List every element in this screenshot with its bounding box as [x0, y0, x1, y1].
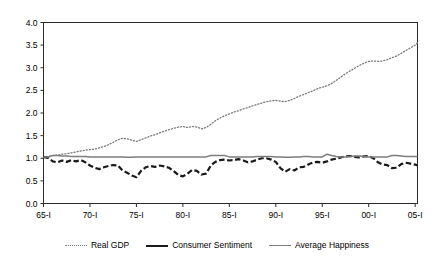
solid-line-key-icon	[269, 242, 291, 249]
x-tick-label: 00-I	[361, 210, 376, 220]
legend-label-consumer-sentiment: Consumer Sentiment	[172, 241, 252, 250]
y-tick-label: 1.5	[26, 131, 38, 141]
x-tick-label: 75-I	[129, 210, 144, 220]
y-tick-label: 2.5	[26, 85, 38, 95]
legend-item-real-gdp: Real GDP	[65, 241, 129, 250]
y-tick-label: 1.0	[26, 153, 38, 163]
legend-label-real-gdp: Real GDP	[91, 241, 129, 250]
y-tick-label: 3.5	[26, 40, 38, 50]
series-line-real-gdp	[44, 43, 418, 157]
y-axis-tick-labels: 0.00.51.01.52.02.53.03.54.0	[26, 18, 38, 209]
y-tick-label: 0.5	[26, 176, 38, 186]
y-tick-label: 0.0	[26, 199, 38, 209]
legend-item-average-happiness: Average Happiness	[269, 241, 369, 250]
y-tick-label: 4.0	[26, 18, 38, 28]
x-tick-label: 80-I	[176, 210, 191, 220]
plot-area: 0.00.51.01.52.02.53.03.54.0 65-I70-I75-I…	[0, 0, 434, 232]
x-axis-tick-marks	[44, 204, 416, 208]
plot-frame	[44, 23, 418, 204]
x-tick-label: 65-I	[36, 210, 51, 220]
legend-label-average-happiness: Average Happiness	[295, 241, 369, 250]
x-tick-label: 90-I	[268, 210, 283, 220]
x-axis-tick-labels: 65-I70-I75-I80-I85-I90-I95-I00-I05-I	[36, 210, 422, 220]
series-line-average-happiness	[44, 154, 418, 157]
dashed-line-key-icon	[146, 242, 168, 249]
x-tick-label: 70-I	[83, 210, 98, 220]
line-chart: 0.00.51.01.52.02.53.03.54.0 65-I70-I75-I…	[0, 0, 434, 258]
x-tick-label: 85-I	[222, 210, 237, 220]
x-tick-label: 05-I	[408, 210, 423, 220]
dotted-line-key-icon	[65, 242, 87, 249]
y-tick-label: 2.0	[26, 108, 38, 118]
series-line-consumer-sentiment	[44, 156, 418, 177]
chart-legend: Real GDP Consumer Sentiment Average Happ…	[0, 232, 434, 258]
x-tick-label: 95-I	[315, 210, 330, 220]
y-tick-label: 3.0	[26, 63, 38, 73]
chart-canvas: 0.00.51.01.52.02.53.03.54.0 65-I70-I75-I…	[0, 0, 434, 232]
data-series-layer	[44, 43, 418, 177]
legend-item-consumer-sentiment: Consumer Sentiment	[146, 241, 252, 250]
